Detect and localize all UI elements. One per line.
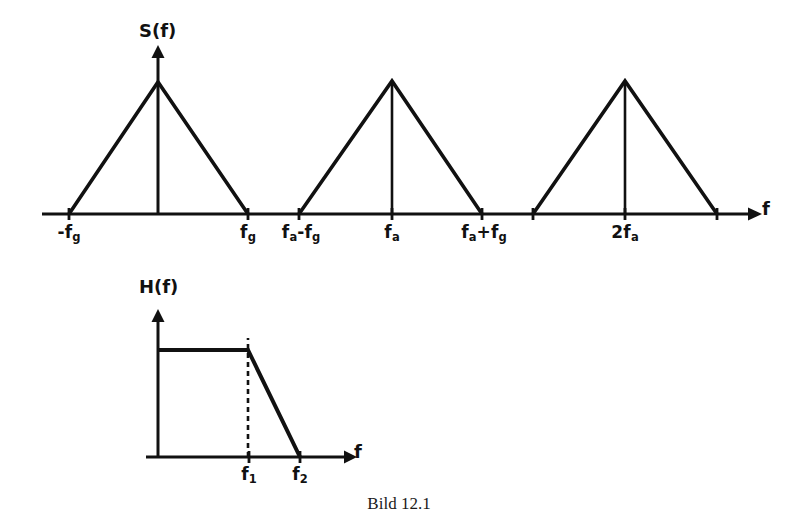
filter-y-axis-arrow-icon	[152, 309, 165, 322]
figure-canvas	[0, 0, 799, 524]
spectrum-x-axis-arrow-icon	[748, 208, 762, 221]
spectrum-plot-group	[42, 45, 762, 221]
spectrum-y-axis-arrow-icon	[152, 45, 165, 58]
figure-caption: Bild 12.1	[367, 494, 430, 514]
spectrum-x-axis-label: f	[762, 198, 770, 219]
filter-y-axis-label: H(f)	[139, 276, 178, 297]
spectrum-tick-label-fg: fg	[240, 222, 256, 242]
spectrum-tick-label-fa: fa	[384, 222, 399, 242]
spectrum-tick-label-2fa: 2fa	[611, 222, 638, 242]
filter-response-trace	[158, 350, 300, 457]
spectrum-tick-label-neg-fg: -fg	[57, 222, 80, 242]
filter-tick-label-f2: f2	[292, 464, 308, 484]
filter-tick-label-f1: f1	[241, 464, 257, 484]
figure-root: S(f) f -fg fg fa-fg fa fa+fg 2fa H(f) f …	[0, 0, 799, 524]
spectrum-tick-label-fa-plus-fg: fa+fg	[461, 222, 507, 242]
filter-x-axis-label: f	[354, 441, 362, 462]
spectrum-y-axis-label: S(f)	[139, 20, 176, 41]
spectrum-tick-label-fa-minus-fg: fa-fg	[282, 222, 320, 242]
spectrum-triangle-first-image	[299, 81, 482, 214]
filter-plot-group	[146, 309, 357, 464]
